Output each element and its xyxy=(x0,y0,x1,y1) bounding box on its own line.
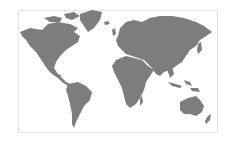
north-america xyxy=(20,22,80,78)
japan xyxy=(197,42,202,54)
australia xyxy=(180,96,204,116)
madagascar xyxy=(140,96,143,106)
greenland xyxy=(80,10,102,32)
indonesia xyxy=(168,82,182,88)
world-map xyxy=(0,0,234,144)
iceland xyxy=(104,21,110,25)
south-america xyxy=(66,82,92,128)
africa xyxy=(112,56,154,108)
united-kingdom xyxy=(112,28,116,36)
central-america xyxy=(56,74,70,86)
new-zealand xyxy=(205,114,211,124)
arctic-islands xyxy=(44,16,62,22)
